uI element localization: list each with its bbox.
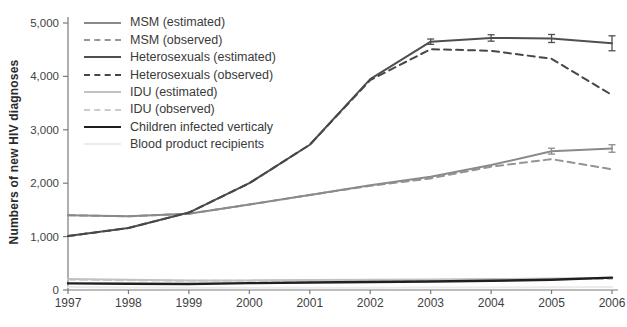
y-tick-label: 0: [53, 284, 59, 296]
legend-label: MSM (estimated): [130, 16, 225, 29]
x-tick-label: 2000: [236, 296, 263, 310]
legend-label: IDU (observed): [130, 103, 215, 116]
error-bars: [427, 34, 615, 154]
y-axis-title: Numbers of new HIV diagnoses: [7, 42, 21, 262]
legend-item-msm-estimated: MSM (estimated): [84, 14, 276, 31]
legend-line-swatch: [84, 39, 121, 41]
legend-item-idu-observed: IDU (observed): [84, 101, 276, 118]
series-line-msm-observed: [68, 159, 612, 216]
legend-label: MSM (observed): [130, 34, 222, 47]
legend-label: Heterosexuals (observed): [130, 69, 273, 82]
y-tick-label: 3,000: [30, 124, 59, 136]
legend-line-swatch: [84, 22, 121, 24]
x-tick-label: 2003: [417, 296, 444, 310]
x-tick-label: 1999: [176, 296, 203, 310]
legend-line-swatch: [84, 126, 121, 128]
legend-line-swatch: [84, 74, 121, 76]
legend-line-swatch: [84, 109, 121, 111]
x-tick-label: 2005: [538, 296, 565, 310]
legend-label: Heterosexuals (estimated): [130, 51, 276, 64]
y-tick-label: 5,000: [30, 17, 59, 29]
y-tick-label: 4,000: [30, 70, 59, 82]
x-tick-label: 2004: [478, 296, 505, 310]
legend-line-swatch: [84, 143, 121, 145]
legend-item-heterosexuals-observed: Heterosexuals (observed): [84, 66, 276, 83]
x-tick-label: 2002: [357, 296, 384, 310]
legend-label: IDU (estimated): [130, 86, 218, 99]
hiv-diagnoses-figure: 01,0002,0003,0004,0005,00019971998199920…: [0, 0, 627, 327]
series-line-blood-product-recipients: [68, 287, 612, 288]
legend-item-blood-product-recipients: Blood product recipients: [84, 136, 276, 153]
y-tick-label: 2,000: [30, 177, 59, 189]
legend-line-swatch: [84, 91, 121, 93]
y-tick-label: 1,000: [30, 231, 59, 243]
legend-item-children-infected-verticaly: Children infected verticaly: [84, 118, 276, 135]
legend-item-msm-observed: MSM (observed): [84, 31, 276, 48]
legend-label: Children infected verticaly: [130, 121, 273, 134]
legend-label: Blood product recipients: [130, 138, 264, 151]
legend-item-idu-estimated: IDU (estimated): [84, 84, 276, 101]
legend-item-heterosexuals-estimated: Heterosexuals (estimated): [84, 49, 276, 66]
x-tick-label: 1998: [115, 296, 142, 310]
series-line-msm-estimated: [68, 148, 612, 216]
legend-line-swatch: [84, 56, 121, 58]
legend: MSM (estimated) MSM (observed) Heterosex…: [84, 14, 276, 153]
x-tick-label: 2001: [296, 296, 323, 310]
x-tick-label: 1997: [55, 296, 82, 310]
x-tick-label: 2006: [599, 296, 626, 310]
